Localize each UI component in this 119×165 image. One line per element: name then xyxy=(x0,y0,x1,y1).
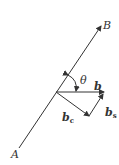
b-s-base: b xyxy=(105,106,113,119)
label-vector-b-s: bs xyxy=(105,107,117,119)
b-c-base: b xyxy=(62,111,70,124)
b-s-subscript: s xyxy=(113,111,117,120)
theta-arc xyxy=(68,75,76,91)
label-b-point: B xyxy=(103,20,111,31)
label-vector-b-c: bc xyxy=(62,112,74,124)
label-theta: θ xyxy=(80,75,87,86)
line-ab xyxy=(19,26,101,148)
b-c-subscript: c xyxy=(70,116,74,125)
label-vector-b: b xyxy=(94,81,102,92)
vector-b-s xyxy=(89,94,103,116)
vector-diagram: B A θ b bc bs xyxy=(0,0,119,165)
label-a-point: A xyxy=(11,149,19,160)
